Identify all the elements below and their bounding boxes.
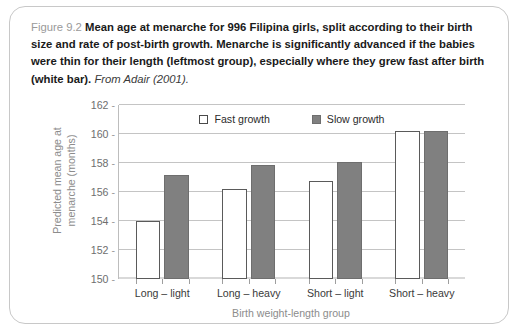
x-tick-group-4-2 xyxy=(422,279,423,284)
bar-fast-growth-group-3 xyxy=(309,181,334,279)
bar-slow-growth-group-2 xyxy=(251,165,276,279)
figure-card: Figure 9.2 Mean age at menarche for 996 … xyxy=(9,6,509,324)
x-tick-group-2-2 xyxy=(249,279,250,284)
plot-area: 150 -152 -154 -156 -158 -160 -162 - Long… xyxy=(118,105,465,279)
y-tick-label-150: 150 - xyxy=(91,273,115,285)
x-tick-group-1-1 xyxy=(136,279,137,284)
bars-container xyxy=(119,105,465,279)
y-tick-label-154: 154 - xyxy=(91,215,115,227)
x-tick-group-3-2 xyxy=(335,279,336,284)
figure-number: Figure 9.2 xyxy=(31,21,82,33)
figure-caption: Figure 9.2 Mean age at menarche for 996 … xyxy=(31,19,489,88)
bar-chart: Predicted mean age at menarche (months) … xyxy=(10,95,510,325)
x-tick-group-2-1 xyxy=(222,279,223,284)
bar-fast-growth-group-1 xyxy=(136,221,161,279)
y-tick-label-156: 156 - xyxy=(91,186,115,198)
x-group-label-4: Short – heavy xyxy=(389,287,454,299)
y-axis-title: Predicted mean age at menarche (months) xyxy=(51,93,78,268)
x-tick-group-4-3 xyxy=(448,279,449,284)
y-axis-title-line2: menarche (months) xyxy=(65,93,79,268)
x-tick-group-3-3 xyxy=(362,279,363,284)
x-tick-group-1-2 xyxy=(162,279,163,284)
bar-slow-growth-group-1 xyxy=(164,175,189,279)
x-tick-group-3-1 xyxy=(309,279,310,284)
x-axis-title: Birth weight-length group xyxy=(118,307,464,319)
x-tick-group-4-1 xyxy=(395,279,396,284)
y-tick-label-162: 162 - xyxy=(91,99,115,111)
x-tick-group-2-3 xyxy=(275,279,276,284)
y-axis-title-line1: Predicted mean age at xyxy=(51,93,65,268)
x-group-label-3: Short – light xyxy=(307,287,364,299)
y-tick-label-158: 158 - xyxy=(91,157,115,169)
bar-fast-growth-group-2 xyxy=(222,189,247,279)
bar-slow-growth-group-4 xyxy=(424,131,449,279)
bar-slow-growth-group-3 xyxy=(337,162,362,279)
x-group-label-2: Long – heavy xyxy=(217,287,281,299)
bar-fast-growth-group-4 xyxy=(395,131,420,279)
x-tick-group-1-3 xyxy=(189,279,190,284)
caption-source: From Adair (2001). xyxy=(94,73,188,85)
y-tick-label-160: 160 - xyxy=(91,128,115,140)
y-tick-label-152: 152 - xyxy=(91,244,115,256)
x-group-label-1: Long – light xyxy=(135,287,190,299)
